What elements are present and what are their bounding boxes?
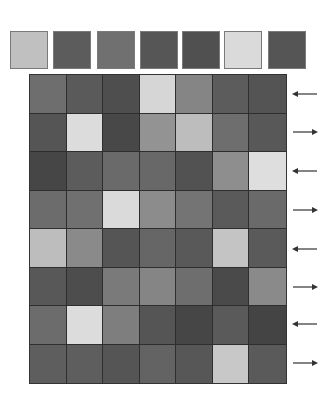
board-cell-r6-c4[interactable]	[140, 268, 177, 307]
board-cell-r4-c5[interactable]	[176, 191, 213, 230]
board-cell-r6-c5[interactable]	[176, 268, 213, 307]
board-cell-r3-c4[interactable]	[140, 152, 177, 191]
palette-swatch-4[interactable]	[140, 31, 178, 69]
board-cell-r8-c2[interactable]	[67, 345, 104, 384]
board-cell-r5-c7[interactable]	[249, 229, 286, 268]
board-cell-r6-c7[interactable]	[249, 268, 286, 307]
board-cell-r7-c2[interactable]	[67, 306, 104, 345]
board-cell-r7-c1[interactable]	[30, 306, 67, 345]
game-stage	[0, 0, 332, 402]
board-cell-r5-c6[interactable]	[213, 229, 250, 268]
palette-swatch-7[interactable]	[268, 31, 306, 69]
board-cell-r7-c5[interactable]	[176, 306, 213, 345]
board-cell-r3-c6[interactable]	[213, 152, 250, 191]
board-cell-r7-c6[interactable]	[213, 306, 250, 345]
board-cell-r4-c6[interactable]	[213, 191, 250, 230]
board-cell-r5-c2[interactable]	[67, 229, 104, 268]
board-cell-r4-c7[interactable]	[249, 191, 286, 230]
row-8-arrow-right-icon[interactable]	[292, 358, 318, 368]
board-cell-r1-c6[interactable]	[213, 75, 250, 114]
board-cell-r4-c4[interactable]	[140, 191, 177, 230]
board-cell-r2-c1[interactable]	[30, 114, 67, 153]
board-cell-r3-c3[interactable]	[103, 152, 140, 191]
row-6-arrow-right-icon[interactable]	[292, 282, 318, 292]
board-cell-r6-c6[interactable]	[213, 268, 250, 307]
board-cell-r1-c5[interactable]	[176, 75, 213, 114]
board-cell-r6-c2[interactable]	[67, 268, 104, 307]
board-cell-r6-c1[interactable]	[30, 268, 67, 307]
board-cell-r7-c3[interactable]	[103, 306, 140, 345]
board-cell-r8-c4[interactable]	[140, 345, 177, 384]
palette-swatch-5[interactable]	[182, 31, 220, 69]
board-cell-r2-c7[interactable]	[249, 114, 286, 153]
row-7-arrow-left-icon[interactable]	[292, 319, 318, 329]
board-cell-r2-c3[interactable]	[103, 114, 140, 153]
board-cell-r1-c1[interactable]	[30, 75, 67, 114]
board-cell-r2-c4[interactable]	[140, 114, 177, 153]
game-board	[29, 74, 287, 384]
board-cell-r5-c4[interactable]	[140, 229, 177, 268]
board-cell-r8-c6[interactable]	[213, 345, 250, 384]
board-cell-r6-c3[interactable]	[103, 268, 140, 307]
board-cell-r2-c2[interactable]	[67, 114, 104, 153]
palette-swatch-3[interactable]	[97, 31, 135, 69]
board-cell-r1-c4[interactable]	[140, 75, 177, 114]
board-cell-r7-c4[interactable]	[140, 306, 177, 345]
board-cell-r8-c7[interactable]	[249, 345, 286, 384]
board-cell-r5-c1[interactable]	[30, 229, 67, 268]
board-cell-r3-c5[interactable]	[176, 152, 213, 191]
board-cell-r2-c5[interactable]	[176, 114, 213, 153]
board-cell-r4-c2[interactable]	[67, 191, 104, 230]
board-cell-r1-c7[interactable]	[249, 75, 286, 114]
row-2-arrow-right-icon[interactable]	[292, 127, 318, 137]
board-cell-r2-c6[interactable]	[213, 114, 250, 153]
board-cell-r1-c3[interactable]	[103, 75, 140, 114]
row-4-arrow-right-icon[interactable]	[292, 205, 318, 215]
board-cell-r7-c7[interactable]	[249, 306, 286, 345]
row-5-arrow-left-icon[interactable]	[292, 244, 318, 254]
palette-swatch-2[interactable]	[53, 31, 91, 69]
row-3-arrow-left-icon[interactable]	[292, 166, 318, 176]
board-cell-r3-c7[interactable]	[249, 152, 286, 191]
board-cell-r5-c3[interactable]	[103, 229, 140, 268]
palette-swatch-6[interactable]	[224, 31, 262, 69]
board-cell-r4-c3[interactable]	[103, 191, 140, 230]
board-cell-r3-c2[interactable]	[67, 152, 104, 191]
board-cell-r8-c1[interactable]	[30, 345, 67, 384]
color-palette	[0, 0, 332, 75]
board-cell-r1-c2[interactable]	[67, 75, 104, 114]
row-1-arrow-left-icon[interactable]	[292, 89, 318, 99]
board-cell-r8-c5[interactable]	[176, 345, 213, 384]
board-cell-r3-c1[interactable]	[30, 152, 67, 191]
palette-swatch-1[interactable]	[10, 31, 48, 69]
board-cell-r8-c3[interactable]	[103, 345, 140, 384]
board-cell-r5-c5[interactable]	[176, 229, 213, 268]
board-cell-r4-c1[interactable]	[30, 191, 67, 230]
